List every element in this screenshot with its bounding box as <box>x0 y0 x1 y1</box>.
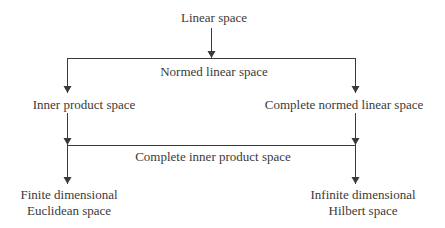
arrowhead-icon <box>352 177 360 184</box>
node-inner-product-space: Inner product space <box>33 97 136 113</box>
node-infinite-dimensional-line1: Infinite dimensional <box>310 187 415 203</box>
arrowhead-icon <box>208 51 216 58</box>
arrowhead-icon <box>64 177 72 184</box>
node-infinite-dimensional-line2: Hilbert space <box>329 203 398 219</box>
node-complete-normed-linear-space: Complete normed linear space <box>265 97 423 113</box>
space-hierarchy-diagram: Linear space Normed linear space Inner p… <box>0 0 445 228</box>
node-complete-inner-product-space: Complete inner product space <box>135 149 291 165</box>
node-linear-space: Linear space <box>181 10 247 26</box>
arrowhead-icon <box>64 138 72 145</box>
arrowhead-icon <box>352 138 360 145</box>
arrowhead-icon <box>64 86 72 93</box>
node-finite-dimensional-line1: Finite dimensional <box>20 187 117 203</box>
node-normed-linear-space: Normed linear space <box>160 64 268 80</box>
arrowhead-icon <box>352 86 360 93</box>
node-finite-dimensional-line2: Euclidean space <box>27 203 111 219</box>
